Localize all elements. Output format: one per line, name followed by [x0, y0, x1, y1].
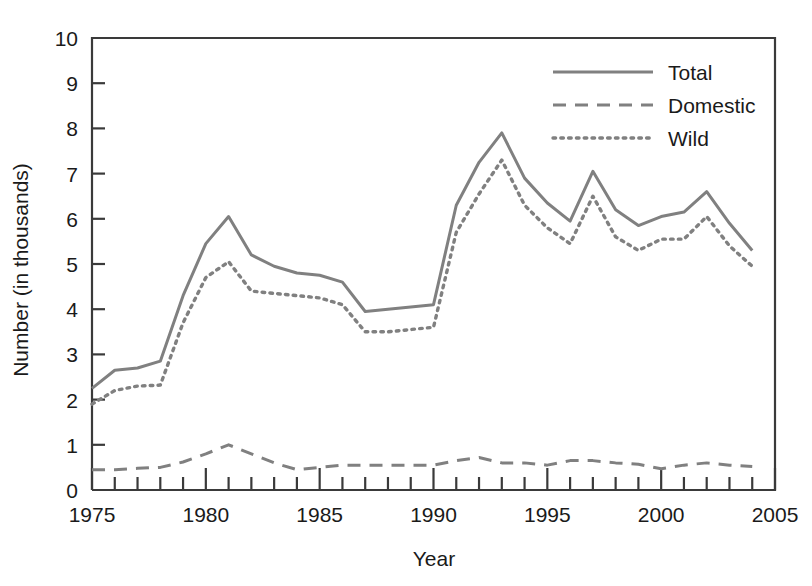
x-axis-title: Year: [413, 547, 455, 570]
chart-legend: TotalDomesticWild: [553, 61, 756, 150]
y-tick-label-8: 8: [66, 117, 78, 140]
y-tick-label-4: 4: [66, 298, 78, 321]
legend-label-total: Total: [668, 61, 712, 84]
y-tick-label-0: 0: [66, 479, 78, 502]
x-tick-label-2005: 2005: [752, 503, 799, 526]
chart-figure: 012345678910 197519801985199019952000200…: [0, 0, 812, 586]
legend-label-domestic: Domestic: [668, 94, 756, 117]
legend-label-wild: Wild: [668, 127, 709, 150]
y-axis-ticks: 012345678910: [55, 27, 105, 502]
y-tick-label-5: 5: [66, 253, 78, 276]
y-tick-label-10: 10: [55, 27, 78, 50]
x-tick-label-1995: 1995: [524, 503, 571, 526]
series-line-wild: [92, 160, 752, 404]
x-tick-label-1990: 1990: [410, 503, 457, 526]
y-tick-label-6: 6: [66, 208, 78, 231]
data-series: [92, 133, 752, 470]
x-tick-label-1985: 1985: [296, 503, 343, 526]
y-axis-title: Number (in thousands): [9, 163, 32, 377]
line-chart: 012345678910 197519801985199019952000200…: [0, 0, 812, 586]
x-tick-label-1975: 1975: [69, 503, 116, 526]
x-tick-label-2000: 2000: [638, 503, 685, 526]
x-tick-label-1980: 1980: [182, 503, 229, 526]
series-line-domestic: [92, 445, 752, 470]
y-tick-label-3: 3: [66, 343, 78, 366]
series-line-total: [92, 133, 752, 388]
x-axis-ticks: 1975198019851990199520002005: [69, 468, 799, 526]
y-tick-label-2: 2: [66, 389, 78, 412]
y-tick-label-7: 7: [66, 163, 78, 186]
y-tick-label-9: 9: [66, 72, 78, 95]
y-tick-label-1: 1: [66, 434, 78, 457]
